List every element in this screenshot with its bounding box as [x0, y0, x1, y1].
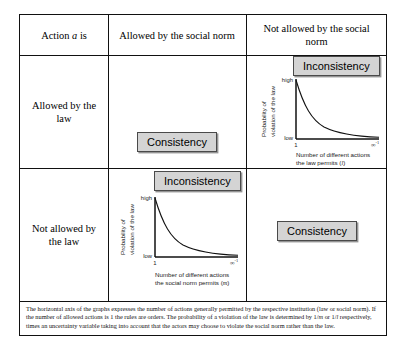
chart-law-permits-xtick-1: 1	[294, 142, 297, 148]
chart-norm-permits-xtick-inf: ∞-1	[230, 258, 238, 266]
cell-notallowed-law-notallowed-norm: Consistency	[246, 168, 387, 301]
tag-consistency-top-left: Consistency	[137, 132, 217, 152]
tag-consistency-bottom-right-label: Consistency	[287, 225, 347, 237]
header-col-allowed-norm-label: Allowed by the social norm	[119, 29, 234, 42]
chart-norm-permits-xlabel-line1: Number of different actions	[155, 271, 229, 278]
chart-law-permits-ytick-high: high	[282, 77, 293, 83]
figure-root: Action a is Allowed by the social norm N…	[0, 0, 406, 351]
row-label-notallowed-law-text: Not allowed by the law	[25, 222, 103, 248]
chart-law-permits-ylabel-line2: violation of the law	[269, 86, 276, 137]
chart-norm-permits-xlabel-line2: the social norm permits (m)	[155, 279, 229, 286]
cell-allowed-law-allowed-norm: Consistency	[108, 55, 246, 168]
row-label-allowed-law: Allowed by the law	[20, 55, 108, 168]
chart-norm-permits-ytick-low: low	[143, 253, 153, 259]
chart-law-permits-ytick-low: low	[284, 135, 294, 141]
tag-consistency-top-left-label: Consistency	[147, 136, 207, 148]
chart-norm-permits: high low 1 ∞-1 Probability of violation …	[113, 187, 245, 289]
matrix-table: Action a is Allowed by the social norm N…	[19, 14, 387, 336]
header-col-allowed-norm: Allowed by the social norm	[108, 15, 246, 55]
row-label-allowed-law-text: Allowed by the law	[25, 99, 103, 125]
header-col-notallowed-norm-label: Not allowed by the social norm	[252, 22, 381, 48]
chart-norm-permits-xtick-1: 1	[153, 260, 156, 266]
chart-law-permits-xlabel-line1: Number of different actions	[296, 151, 370, 158]
chart-norm-permits-ytick-high: high	[141, 195, 152, 201]
chart-norm-permits-curve	[155, 198, 238, 255]
chart-norm-permits-ylabel-line2: violation of the law	[128, 204, 135, 255]
footnote: The horizontal axis of the graphs expres…	[20, 301, 386, 335]
chart-law-permits-xtick-inf: ∞-1	[371, 140, 379, 148]
header-corner: Action a is	[20, 15, 108, 55]
chart-law-permits-curve	[296, 80, 379, 137]
row-label-notallowed-law: Not allowed by the law	[20, 168, 108, 301]
cell-allowed-law-notallowed-norm: Inconsistency high low 1 ∞-1	[246, 55, 387, 168]
header-col-notallowed-norm: Not allowed by the social norm	[246, 15, 387, 55]
tag-consistency-bottom-right: Consistency	[277, 221, 357, 241]
footnote-text: The horizontal axis of the graphs expres…	[26, 305, 376, 329]
chart-law-permits-xlabel-line2: the law permits (l)	[296, 159, 345, 166]
chart-law-permits: high low 1 ∞-1 Probability of violation …	[254, 69, 386, 165]
chart-norm-permits-ylabel-line1: Probability of	[119, 219, 126, 255]
tag-inconsistency-bottom-left-label: Inconsistency	[164, 175, 231, 187]
chart-law-permits-ylabel-line1: Probability of	[260, 101, 267, 137]
header-corner-label: Action a is	[41, 29, 87, 42]
cell-notallowed-law-allowed-norm: Inconsistency high low 1 ∞-1 Probability…	[108, 168, 246, 301]
